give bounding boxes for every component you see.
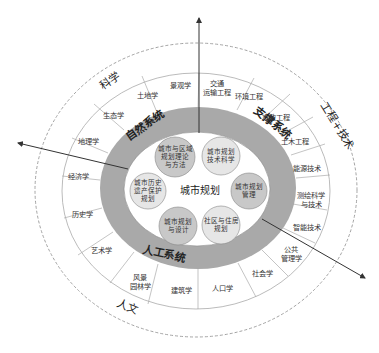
bubble-label: 城市规划 xyxy=(207,147,235,156)
bubble-label: 城市与区域 xyxy=(158,144,193,153)
bubble-label: 社区与住房 xyxy=(204,216,239,225)
bubble-label: 技术科学 xyxy=(207,155,235,164)
bubble-label: 管理 xyxy=(242,190,256,199)
discipline-label: 管理学 xyxy=(281,254,302,263)
bubble-label: 规划理论 xyxy=(161,152,189,161)
discipline-label: 经济学 xyxy=(68,172,89,181)
discipline-label: 社会学 xyxy=(252,269,273,278)
discipline-label: 交通 xyxy=(210,79,224,88)
discipline-label: 测绘科学 xyxy=(297,191,325,200)
bubble-label: 城市规划 xyxy=(235,182,263,191)
discipline-label: 艺术学 xyxy=(91,246,112,255)
discipline-label: 风景 xyxy=(133,273,147,282)
bubble-label: 与方法 xyxy=(165,160,186,169)
discipline-label: 园林学 xyxy=(130,282,151,291)
discipline-label: 历史学 xyxy=(72,210,93,219)
discipline-label: 土地学 xyxy=(137,91,158,100)
urban-planning-discipline-diagram: 城市与区域 规划理论 与方法 城市规划 技术科学 城市规划 管理 社区与住房 规… xyxy=(0,0,379,353)
discipline-label: 景观学 xyxy=(170,81,191,90)
domain-label-science: 科学 xyxy=(96,68,122,92)
bubble-label: 与设计 xyxy=(168,225,189,234)
discipline-label: 公共 xyxy=(284,245,298,254)
discipline-label: 建筑学 xyxy=(171,286,192,295)
center-label: 城市规划 xyxy=(180,184,220,196)
bubble-label: 城市历史 xyxy=(134,178,162,187)
discipline-label: 土木工程 xyxy=(281,137,309,146)
discipline-label: 环境工程 xyxy=(235,92,263,101)
bubble-label: 城市规划 xyxy=(164,217,192,226)
domain-label-humanities: 人文 xyxy=(115,296,141,317)
discipline-label: 市政工程 xyxy=(262,113,290,122)
discipline-label: 智能技术 xyxy=(293,223,321,232)
discipline-label: 与技术 xyxy=(301,200,322,209)
bubble-label: 规划 xyxy=(214,224,228,233)
discipline-label: 地理学 xyxy=(78,137,99,146)
discipline-label: 运输工程 xyxy=(203,88,231,97)
discipline-label: 能源技术 xyxy=(293,164,321,173)
domain-label-engineering-technology: 工程+技术 xyxy=(318,100,357,152)
bubble-label: 规划 xyxy=(141,194,155,203)
discipline-label: 生态学 xyxy=(103,111,124,120)
discipline-label: 人口学 xyxy=(212,284,233,293)
bubble-label: 遗产保护 xyxy=(134,186,162,195)
